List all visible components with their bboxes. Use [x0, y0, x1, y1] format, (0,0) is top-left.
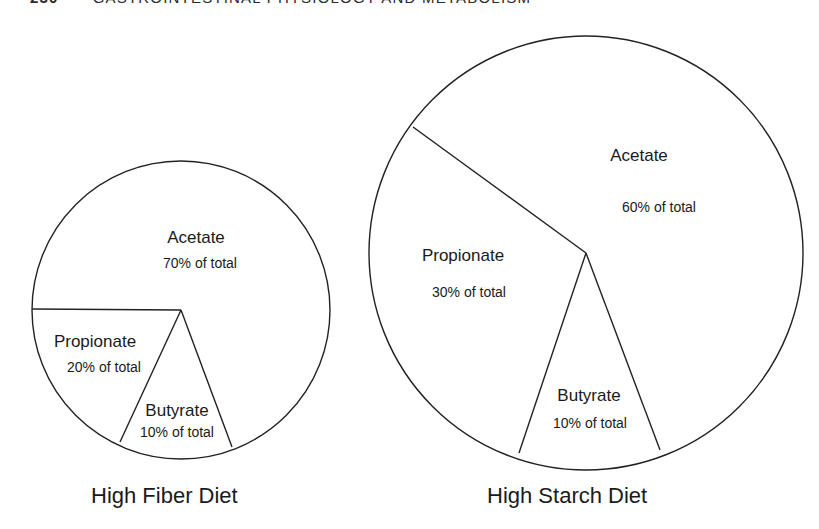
segment-label-propionate: Propionate: [422, 246, 504, 265]
segment-label-acetate: Acetate: [610, 146, 668, 165]
segment-label-propionate: Propionate: [54, 332, 136, 351]
caption-high-starch: High Starch Diet: [487, 483, 647, 509]
caption-high-fiber: High Fiber Diet: [91, 483, 238, 509]
segment-pct-acetate: 60% of total: [622, 199, 696, 215]
segment-pct-propionate: 20% of total: [67, 359, 141, 375]
segment-label-butyrate: Butyrate: [145, 401, 208, 420]
divider-acetate-propionate: [32, 309, 181, 310]
pie-charts: Acetate 70% of total Propionate 20% of t…: [0, 0, 819, 529]
segment-pct-butyrate: 10% of total: [553, 415, 627, 431]
segment-pct-propionate: 30% of total: [432, 284, 506, 300]
segment-label-acetate: Acetate: [167, 228, 225, 247]
segment-label-butyrate: Butyrate: [557, 386, 620, 405]
segment-pct-acetate: 70% of total: [163, 255, 237, 271]
segment-pct-butyrate: 10% of total: [140, 424, 214, 440]
